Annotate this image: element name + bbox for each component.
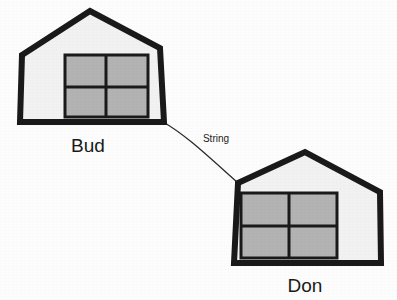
house-bud-label: Bud <box>71 135 105 156</box>
string-label: String <box>203 133 229 144</box>
house-bud-group[interactable]: Bud <box>20 11 164 156</box>
house-bud-window <box>65 55 148 117</box>
house-don-group[interactable]: Don <box>234 152 381 296</box>
string-connector-line <box>163 122 238 183</box>
house-don-label: Don <box>288 275 323 296</box>
diagram-canvas: Bud Don String <box>0 0 397 300</box>
house-don-window <box>241 193 337 258</box>
houses-string-diagram: Bud Don String <box>0 0 397 300</box>
